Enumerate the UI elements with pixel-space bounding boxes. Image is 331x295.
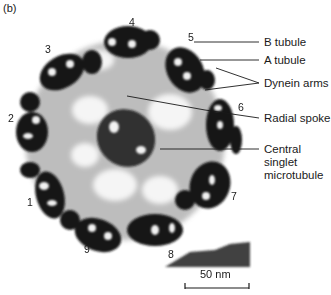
label-central-line1: Central (264, 143, 323, 156)
doublet-number-5: 5 (188, 31, 194, 43)
label-central-singlet-microtubule: Central singlet microtubule (264, 143, 323, 182)
label-radial-spoke: Radial spoke (264, 112, 330, 125)
label-central-line3: microtubule (264, 169, 323, 182)
axoneme-figure: (b) 1 2 3 4 5 6 7 8 9 B tubule A tubule … (0, 0, 331, 295)
label-a-tubule: A tubule (264, 54, 306, 67)
panel-label: (b) (3, 2, 16, 14)
label-central-line2: singlet (264, 156, 323, 169)
doublet-number-2: 2 (8, 112, 14, 124)
doublet-number-6: 6 (238, 101, 244, 113)
doublet-number-4: 4 (129, 16, 135, 28)
scale-bar-label: 50 nm (200, 268, 231, 280)
doublet-number-3: 3 (45, 43, 51, 55)
doublet-number-8: 8 (168, 248, 174, 260)
label-dynein-arms: Dynein arms (264, 77, 329, 90)
doublet-number-9: 9 (84, 243, 90, 255)
doublet-number-7: 7 (231, 190, 237, 202)
doublet-number-1: 1 (27, 196, 33, 208)
label-b-tubule: B tubule (264, 36, 306, 49)
